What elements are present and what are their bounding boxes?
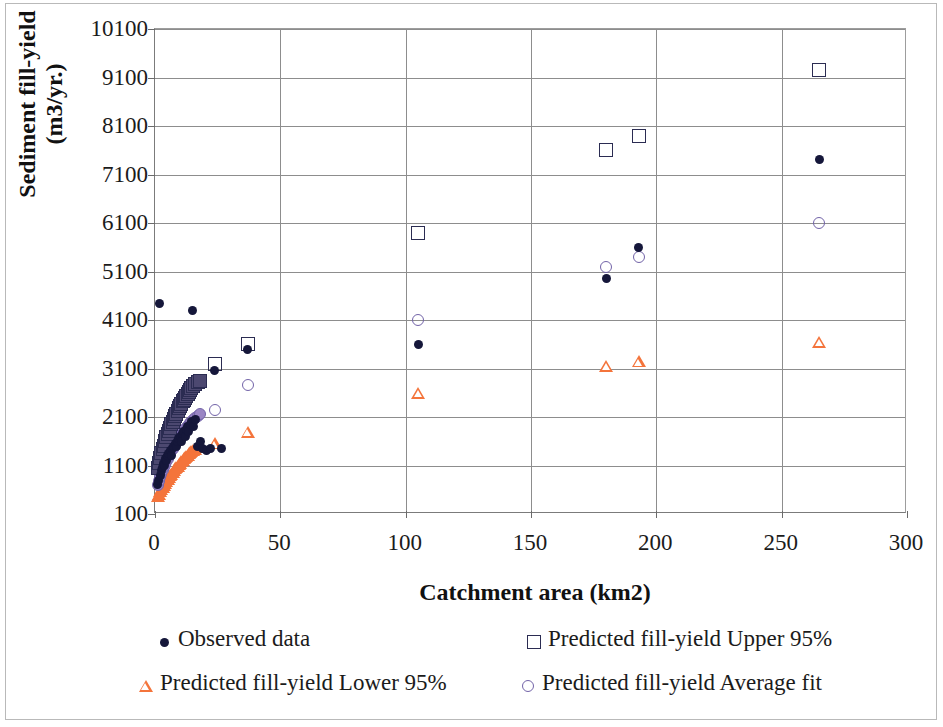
data-point-filled-circle [602,274,611,283]
x-gridline [782,29,783,512]
x-axis-tick [155,511,156,518]
data-point-filled-circle [815,155,824,164]
y-axis-tick [148,369,155,370]
data-point-open-circle [633,251,645,263]
y-gridline [155,369,905,370]
y-axis-tick-label: 5100 [18,259,148,285]
y-gridline [155,29,905,30]
y-axis-tick [148,78,155,79]
chart-area: 1001100210031004100510061007100810091001… [154,23,916,518]
x-axis-tick-label: 0 [104,530,204,556]
data-point-filled-circle [634,243,643,252]
data-point-filled-circle [243,345,252,354]
x-axis-tick-label: 50 [229,530,329,556]
chart-legend: Observed dataPredicted fill-yield Upper … [126,626,916,716]
data-point-open-circle [242,379,254,391]
data-point-open-triangle [812,336,826,348]
data-point-open-triangle [411,387,425,399]
x-axis-tick [280,511,281,518]
x-axis-tick [782,511,783,518]
y-axis-tick-label: 8100 [18,113,148,139]
plot-area [154,28,906,513]
x-axis-tick-label: 150 [480,530,580,556]
data-point-open-circle [412,314,424,326]
figure-frame: Sediment fill-yield (m3/yr.) 10011002100… [5,3,937,720]
x-gridline [531,29,532,512]
x-axis-tick-label: 200 [605,530,705,556]
legend-label: Predicted fill-yield Upper 95% [548,626,832,652]
y-gridline [155,223,905,224]
x-axis-tick [656,511,657,518]
data-point-open-square [632,129,646,143]
data-point-open-triangle [241,426,255,438]
y-gridline [155,78,905,79]
data-point-filled-circle [155,299,164,308]
data-point-filled-circle [217,444,226,453]
y-gridline [155,175,905,176]
y-axis-tick [148,126,155,127]
legend-label: Predicted fill-yield Average fit [542,670,822,696]
x-gridline [280,29,281,512]
y-axis-tick-label: 6100 [18,210,148,236]
y-gridline [155,417,905,418]
y-gridline [155,466,905,467]
y-gridline [155,320,905,321]
y-axis-tick [148,320,155,321]
y-axis-tick-label: 9100 [18,65,148,91]
x-axis-tick [907,511,908,518]
data-point-open-square [812,63,826,77]
x-axis-title: Catchment area (km2) [154,579,916,606]
y-axis-tick-label: 3100 [18,356,148,382]
data-point-open-circle [600,261,612,273]
legend-marker-open-circle [522,680,534,692]
data-point-open-square [411,226,425,240]
data-point-filled-circle [191,415,200,424]
x-axis-tick-label: 100 [355,530,455,556]
y-axis-tick [148,223,155,224]
y-gridline [155,272,905,273]
data-point-open-circle [813,217,825,229]
data-point-filled-circle [188,306,197,315]
x-gridline [656,29,657,512]
x-axis-tick-label: 300 [856,530,943,556]
y-axis-tick [148,272,155,273]
x-axis-tick-label: 250 [731,530,831,556]
data-point-open-square [193,374,207,388]
y-axis-tick [148,29,155,30]
y-axis-tick-label: 4100 [18,307,148,333]
x-axis-tick [531,511,532,518]
data-point-open-triangle [599,360,613,372]
data-point-filled-circle [210,366,219,375]
data-point-open-triangle [632,355,646,367]
y-gridline [155,126,905,127]
legend-marker-open-triangle [139,680,153,692]
y-axis-tick-label: 100 [18,501,148,527]
data-point-filled-circle [206,444,215,453]
y-axis-tick-label: 10100 [18,16,148,42]
legend-label: Predicted fill-yield Lower 95% [160,670,447,696]
legend-label: Observed data [178,626,310,652]
data-point-filled-circle [414,340,423,349]
x-axis-tick [406,511,407,518]
data-point-open-square [599,143,613,157]
x-gridline [406,29,407,512]
legend-marker-open-square [527,635,541,649]
y-axis-tick-label: 7100 [18,162,148,188]
y-axis-tick [148,514,155,515]
y-axis-tick [148,175,155,176]
y-axis-tick [148,417,155,418]
y-axis-tick-label: 2100 [18,404,148,430]
y-axis-tick-label: 1100 [18,453,148,479]
data-point-open-circle [209,404,221,416]
legend-marker-filled-circle [160,638,169,647]
